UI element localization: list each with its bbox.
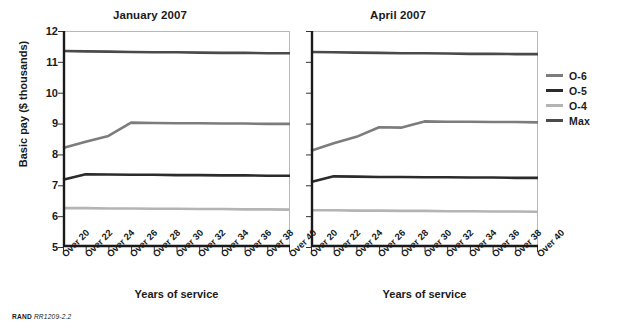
- source-note: RAND RR1209-2.2: [12, 313, 71, 320]
- legend-swatch-icon: [546, 74, 563, 77]
- y-tick: 7: [42, 180, 58, 190]
- y-tick: 8: [42, 149, 58, 159]
- legend-item-max[interactable]: Max: [546, 113, 612, 128]
- legend-swatch-icon: [546, 104, 563, 107]
- y-axis-label: Basic pay ($ thousands): [17, 14, 29, 194]
- plot-area-april: [311, 31, 538, 247]
- series-line-o-5: [311, 176, 538, 182]
- panel-title-april: April 2007: [248, 9, 548, 21]
- series-line-o-4: [311, 210, 538, 212]
- legend-item-o-4[interactable]: O-4: [546, 98, 612, 113]
- figure: January 2007 Basic pay ($ thousands) 12 …: [0, 0, 617, 330]
- y-tick: 12: [42, 26, 58, 36]
- y-tick: 10: [42, 88, 58, 98]
- y-tick: 9: [42, 118, 58, 128]
- legend: O-6O-5O-4Max: [546, 68, 612, 128]
- source-note-id: RR1209-2.2: [34, 313, 72, 320]
- y-tick: 5: [42, 242, 58, 252]
- legend-swatch-icon: [546, 89, 563, 92]
- source-note-org: RAND: [12, 313, 32, 320]
- y-tick: 11: [42, 57, 58, 67]
- series-line-o-6: [311, 121, 538, 150]
- series-line-max: [311, 52, 538, 54]
- legend-label: Max: [569, 115, 590, 127]
- x-axis-label-april: Years of service: [311, 288, 538, 300]
- y-tick: 6: [42, 211, 58, 221]
- legend-label: O-5: [569, 85, 587, 97]
- y-axis-ticks: 12 11 10 9 8 7 6 5: [40, 31, 58, 247]
- legend-label: O-6: [569, 70, 587, 82]
- legend-label: O-4: [569, 100, 587, 112]
- legend-item-o-5[interactable]: O-5: [546, 83, 612, 98]
- legend-swatch-icon: [546, 119, 563, 122]
- legend-item-o-6[interactable]: O-6: [546, 68, 612, 83]
